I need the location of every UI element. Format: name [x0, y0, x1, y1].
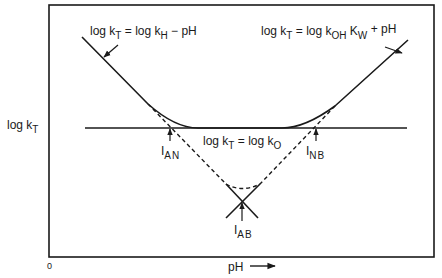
eq-sub: T	[228, 140, 234, 151]
eq-sub: H	[161, 30, 168, 41]
y-axis-label: log kT	[7, 119, 38, 131]
neutral-equation: log kT = log kO	[203, 135, 281, 147]
eq-text: log k	[203, 134, 228, 148]
eq-sub: OH	[332, 30, 347, 41]
x-axis-label: pH	[228, 261, 243, 273]
acid-equation: log kT = log kH − pH	[90, 25, 197, 37]
ian-label: IAN	[161, 145, 180, 157]
int-sub: NB	[309, 150, 325, 161]
axis-text: log k	[7, 118, 32, 132]
eq-text: K	[347, 24, 358, 38]
int-sub: AB	[237, 229, 252, 240]
eq-text: log k	[90, 24, 115, 38]
axis-sub: T	[32, 124, 38, 135]
eq-sub: O	[274, 140, 282, 151]
eq-sub: W	[358, 30, 367, 41]
eq-text: = log k	[121, 24, 160, 38]
iab-label: IAB	[234, 224, 253, 236]
acid-eq-arrow-icon	[104, 45, 118, 57]
eq-text: log k	[261, 24, 286, 38]
int-sub: AN	[164, 150, 180, 161]
eq-text: = log k	[292, 24, 331, 38]
base-equation: log kT = log kOH KW + pH	[261, 25, 396, 37]
inb-label: INB	[306, 145, 325, 157]
origin-label: 0	[47, 262, 52, 271]
eq-text: − pH	[168, 24, 197, 38]
eq-text: + pH	[367, 22, 396, 36]
eq-sub: T	[286, 30, 292, 41]
ab-dashed-curve	[226, 184, 260, 189]
eq-text: = log k	[234, 134, 273, 148]
eq-sub: T	[115, 30, 121, 41]
total-rate-curve	[82, 37, 408, 128]
